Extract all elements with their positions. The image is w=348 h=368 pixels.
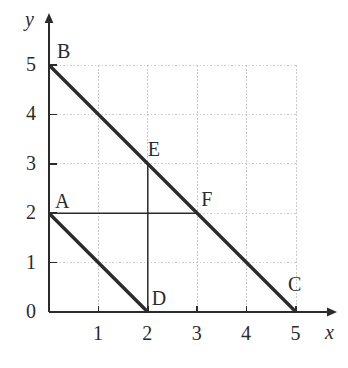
y-tick-label-3: 3	[26, 153, 36, 173]
x-tick-label-4: 4	[241, 323, 251, 343]
geometry-figure: ABCDEF12345123450xy	[0, 0, 348, 368]
x-tick-label-1: 1	[93, 323, 103, 343]
point-label-e: E	[148, 139, 160, 159]
y-tick-label-4: 4	[26, 103, 36, 123]
y-tick-label-1: 1	[26, 252, 36, 272]
point-label-c: C	[288, 274, 301, 294]
origin-label: 0	[26, 301, 36, 321]
point-label-f: F	[201, 189, 212, 209]
point-label-a: A	[55, 191, 69, 211]
y-axis-arrowhead	[45, 13, 54, 23]
x-axis-label: x	[325, 322, 334, 342]
x-tick-label-3: 3	[192, 323, 202, 343]
x-tick-label-2: 2	[142, 323, 152, 343]
x-tick-label-5: 5	[291, 323, 301, 343]
point-label-b: B	[57, 41, 70, 61]
y-tick-label-2: 2	[26, 202, 36, 222]
segment-BC	[49, 65, 296, 312]
x-axis-arrowhead	[327, 308, 337, 317]
y-axis-label: y	[25, 9, 34, 29]
plot-canvas	[0, 0, 348, 368]
y-tick-label-5: 5	[26, 54, 36, 74]
point-label-d: D	[152, 288, 166, 308]
